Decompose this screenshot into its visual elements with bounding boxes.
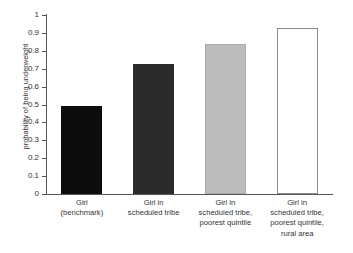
x-axis-category-label: Girl inscheduled tribe,poorest quintile [186,198,266,229]
category-label-line: scheduled tribe [114,208,194,218]
y-tick-label: 0.6 [9,83,39,91]
x-axis-category-label: Girl inscheduled tribe,poorest quintile,… [257,198,337,239]
x-axis-category-label: Girl inscheduled tribe [114,198,194,218]
bar [133,64,174,194]
bars-container [46,15,333,194]
y-tick-label: 0.4 [9,118,39,126]
category-label-line: poorest quintile, [257,218,337,228]
y-tick-label: 0.2 [9,154,39,162]
y-tick-label: 0.8 [9,47,39,55]
y-tick-label: 0 [9,190,39,198]
y-tick-label: 1 [9,11,39,19]
category-label-line: Girl in [114,198,194,208]
category-label-line: scheduled tribe, [257,208,337,218]
bar [205,44,246,194]
y-tick-label: 0.5 [9,101,39,109]
x-axis-category-label: Girl(benchmark) [42,198,122,218]
y-tick-label: 0.1 [9,172,39,180]
category-label-line: Girl [42,198,122,208]
category-label-line: poorest quintile [186,218,266,228]
bar-chart: probability of being underweight 00.10.2… [0,0,353,253]
category-label-line: (benchmark) [42,208,122,218]
x-axis-line [46,194,333,195]
y-tick-label: 0.7 [9,65,39,73]
bar [277,28,318,194]
category-label-line: Girl in [257,198,337,208]
category-label-line: rural area [257,229,337,239]
category-label-line: scheduled tribe, [186,208,266,218]
category-label-line: Girl in [186,198,266,208]
y-tick-label: 0.9 [9,29,39,37]
y-tick-label: 0.3 [9,136,39,144]
y-tick-mark [42,194,46,195]
bar [61,106,102,194]
